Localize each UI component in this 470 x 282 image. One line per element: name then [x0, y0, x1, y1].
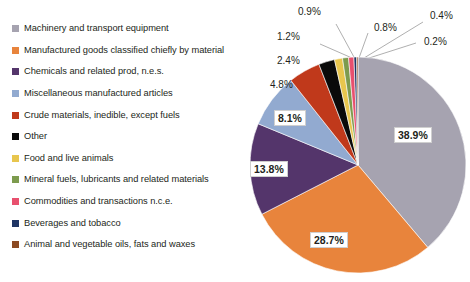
callout-label-48: 4.8% — [270, 79, 293, 90]
legend-item[interactable]: Chemicals and related prod, n.e.s. — [12, 61, 248, 83]
legend-swatch-icon — [12, 112, 19, 119]
legend-swatch-icon — [12, 155, 19, 162]
legend-item-label: Animal and vegetable oils, fats and waxe… — [24, 239, 195, 250]
pie-chart-figure: Machinery and transport equipment Manufa… — [0, 0, 470, 282]
legend-swatch-icon — [12, 47, 19, 54]
legend-swatch-icon — [12, 241, 19, 248]
legend-item-label: Other — [24, 131, 47, 142]
legend-item[interactable]: Mineral fuels, lubricants and related ma… — [12, 169, 248, 191]
callout-label-02: 0.2% — [424, 36, 447, 47]
legend-item-label: Miscellaneous manufactured articles — [24, 88, 173, 99]
legend-item[interactable]: Miscellaneous manufactured articles — [12, 83, 248, 105]
legend-swatch-icon — [12, 220, 19, 227]
legend-item[interactable]: Food and live animals — [12, 148, 248, 170]
legend-item-label: Mineral fuels, lubricants and related ma… — [24, 174, 209, 185]
callout-leader-lines — [320, 22, 423, 59]
leader-line-09 — [336, 24, 355, 58]
legend-item[interactable]: Other — [12, 126, 248, 148]
legend-swatch-icon — [12, 68, 19, 75]
legend-swatch-icon — [12, 198, 19, 205]
leader-line-12 — [320, 44, 352, 58]
slice-value-label-81: 8.1% — [274, 110, 306, 126]
chart-legend: Machinery and transport equipment Manufa… — [12, 18, 248, 256]
pie-plot-area: 0.9% 0.8% 0.4% 0.2% 1.2% 2.4% 4.8% 38.9%… — [248, 0, 470, 282]
legend-swatch-icon — [12, 90, 19, 97]
legend-item[interactable]: Beverages and tobacco — [12, 212, 248, 234]
callout-label-12: 1.2% — [277, 31, 300, 42]
legend-swatch-icon — [12, 25, 19, 32]
legend-swatch-icon — [12, 133, 19, 140]
slice-value-label-389: 38.9% — [394, 127, 432, 143]
legend-item-label: Crude materials, inedible, except fuels — [24, 110, 180, 121]
legend-swatch-icon — [12, 176, 19, 183]
slice-value-label-287: 28.7% — [310, 232, 348, 248]
legend-item[interactable]: Machinery and transport equipment — [12, 18, 248, 40]
legend-item-label: Machinery and transport equipment — [24, 23, 169, 34]
legend-item[interactable]: Crude materials, inedible, except fuels — [12, 104, 248, 126]
legend-item-label: Beverages and tobacco — [24, 218, 121, 229]
callout-label-09: 0.9% — [298, 6, 321, 17]
legend-item-label: Chemicals and related prod, n.e.s. — [24, 66, 164, 77]
leader-line-02 — [366, 43, 416, 59]
leader-line-08 — [359, 33, 368, 58]
legend-item[interactable]: Commodities and transactions n.c.e. — [12, 191, 248, 213]
legend-item[interactable]: Manufactured goods classified chiefly by… — [12, 40, 248, 62]
callout-label-04: 0.4% — [430, 10, 453, 21]
slice-value-label-138: 13.8% — [250, 161, 288, 177]
legend-item[interactable]: Animal and vegetable oils, fats and waxe… — [12, 234, 248, 256]
callout-label-24: 2.4% — [277, 55, 300, 66]
legend-item-label: Manufactured goods classified chiefly by… — [24, 45, 224, 56]
callout-label-08: 0.8% — [374, 22, 397, 33]
legend-item-label: Food and live animals — [24, 153, 113, 164]
legend-item-label: Commodities and transactions n.c.e. — [24, 196, 173, 207]
